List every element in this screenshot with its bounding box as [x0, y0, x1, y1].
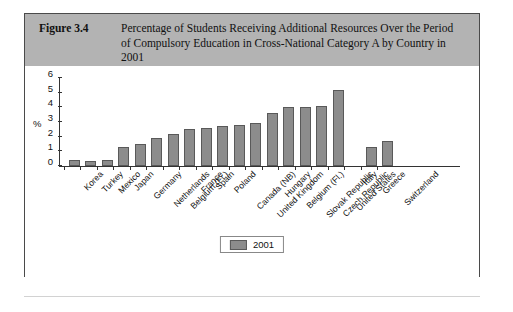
x-axis: [59, 166, 460, 167]
chart-area: % 0123456 KoreaTurkeyMexicoJapanGermanyN…: [25, 66, 479, 277]
figure-container: Figure 3.4 Percentage of Students Receiv…: [24, 13, 480, 277]
bar-slot: [165, 78, 182, 166]
bar-slot: [363, 78, 380, 166]
x-tick-label: Switzerland: [402, 169, 440, 207]
bar-slot: [314, 78, 331, 166]
figure-screenshot: Figure 3.4 Percentage of Students Receiv…: [0, 0, 513, 312]
bar: [217, 126, 228, 166]
y-tick-label: 6: [48, 68, 53, 79]
bar: [184, 129, 195, 166]
y-axis-label: %: [33, 117, 41, 128]
bar: [201, 128, 212, 166]
bar-group: [59, 78, 460, 166]
bar: [250, 123, 261, 166]
bar: [366, 147, 377, 166]
bar-slot: [380, 78, 397, 166]
figure-caption: Percentage of Students Receiving Additio…: [121, 21, 465, 65]
bar: [102, 160, 113, 166]
bar-slot: [198, 78, 215, 166]
bar-slot: [281, 78, 298, 166]
y-tick-label: 5: [48, 82, 53, 93]
y-tick-label: 2: [48, 126, 53, 137]
bar: [382, 141, 393, 166]
bar: [300, 107, 311, 166]
bar: [135, 144, 146, 166]
bar: [267, 113, 278, 166]
bar-slot: [116, 78, 133, 166]
bar: [333, 90, 344, 166]
bar-slot: [215, 78, 232, 166]
figure-number: Figure 3.4: [39, 21, 121, 36]
bar: [234, 125, 245, 166]
bar-slot: [66, 78, 83, 166]
figure-header: Figure 3.4 Percentage of Students Receiv…: [25, 14, 479, 66]
bar-slot: [132, 78, 149, 166]
y-tick-label: 4: [48, 97, 53, 108]
bar-slot: [149, 78, 166, 166]
bar: [85, 161, 96, 166]
bar-slot: [83, 78, 100, 166]
bar: [69, 160, 80, 166]
footer-divider: [24, 296, 480, 297]
bar-slot: [347, 78, 364, 166]
bar: [168, 134, 179, 166]
plot-region: % 0123456: [59, 78, 460, 167]
bar: [151, 138, 162, 166]
bar-slot: [231, 78, 248, 166]
bar: [316, 106, 327, 166]
bar-slot: [297, 78, 314, 166]
legend-swatch-icon: [230, 240, 247, 250]
y-tick-label: 3: [48, 112, 53, 123]
bar-slot: [330, 78, 347, 166]
bar: [283, 107, 294, 166]
bar-slot: [264, 78, 281, 166]
chart-legend: 2001: [220, 236, 284, 253]
bar-slot: [99, 78, 116, 166]
x-tick-label: Poland: [231, 169, 257, 195]
legend-label: 2001: [253, 239, 274, 250]
bar: [118, 147, 129, 166]
bar-slot: [248, 78, 265, 166]
y-tick-label: 1: [48, 141, 53, 152]
y-tick-label: 0: [48, 156, 53, 167]
bar-slot: [182, 78, 199, 166]
